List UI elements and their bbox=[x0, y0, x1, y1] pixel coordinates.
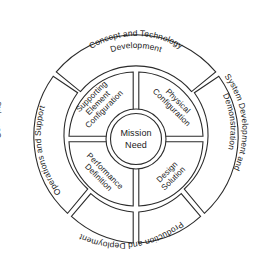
center-label-line1: Mission bbox=[120, 128, 151, 138]
center-label-line2: Need bbox=[125, 140, 147, 150]
outer-label-concepts: Concepts bbox=[0, 101, 3, 140]
center-circle-mission-need[interactable]: Mission Need bbox=[106, 109, 166, 169]
systems-engineering-circular-diagram: Concept and Technology Development Syste… bbox=[0, 0, 271, 279]
